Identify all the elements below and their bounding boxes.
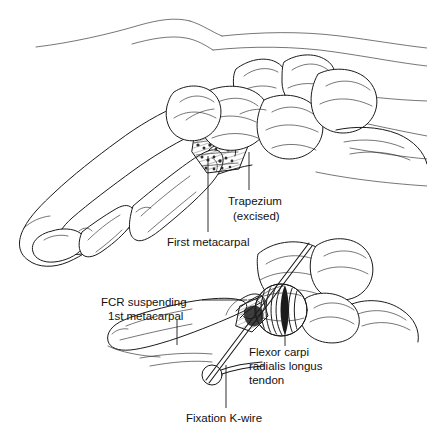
label-flexor-carpi-line2: radialis longus — [249, 360, 323, 372]
label-flexor-carpi-line3: tendon — [249, 374, 284, 386]
anatomy-drawing: Trapezium (excised) First metacarpal FCR… — [0, 0, 427, 439]
label-fixation-kwire: Fixation K-wire — [186, 412, 262, 424]
label-trapezium-line1: Trapezium — [228, 195, 282, 207]
canvas-background — [0, 0, 427, 439]
label-first-metacarpal: First metacarpal — [167, 236, 249, 248]
label-fcr-suspending-line2: 1st metacarpal — [108, 310, 183, 322]
surgical-illustration-figure: Trapezium (excised) First metacarpal FCR… — [0, 0, 427, 439]
label-flexor-carpi-line1: Flexor carpi — [249, 346, 309, 358]
label-fcr-suspending-line1: FCR suspending — [101, 296, 187, 308]
label-trapezium-line2: (excised) — [233, 210, 280, 222]
